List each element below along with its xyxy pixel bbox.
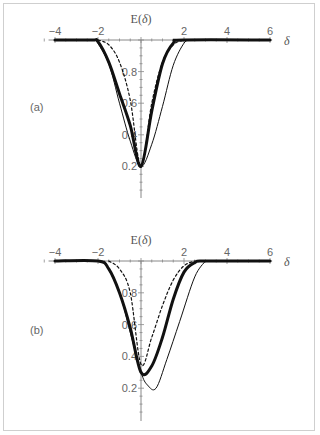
- x-tick-label: 6: [267, 246, 273, 258]
- x-tick-label: −4: [49, 246, 62, 258]
- x-tick-label: 2: [181, 25, 187, 37]
- x-axis-title: δ: [284, 255, 290, 269]
- panel-label: (b): [30, 324, 43, 336]
- x-tick-label: −4: [49, 25, 62, 37]
- x-tick-label: 6: [267, 25, 273, 37]
- chart-canvas: −4−2246δ0.20.40.60.8E(δ)(a)−4−2246δ0.20.…: [0, 0, 320, 435]
- series-thick-line: [55, 39, 270, 166]
- y-tick-label: 0.2: [122, 160, 137, 172]
- series-thick-line: [55, 260, 270, 374]
- x-tick-label: 4: [224, 25, 230, 37]
- y-axis-title: E(δ): [131, 233, 152, 247]
- y-tick-label: 0.2: [122, 382, 137, 394]
- panel-b: −4−2246δ0.20.40.60.8E(δ)(b): [30, 233, 290, 421]
- x-tick-label: −2: [92, 246, 105, 258]
- panel-label: (a): [30, 101, 43, 113]
- series-thin-line: [104, 261, 205, 390]
- x-tick-label: 4: [224, 246, 230, 258]
- x-tick-label: 2: [181, 246, 187, 258]
- x-tick-label: −2: [92, 25, 105, 37]
- x-axis-title: δ: [284, 34, 290, 48]
- panel-a: −4−2246δ0.20.40.60.8E(δ)(a): [30, 12, 290, 198]
- y-axis-title: E(δ): [131, 12, 152, 26]
